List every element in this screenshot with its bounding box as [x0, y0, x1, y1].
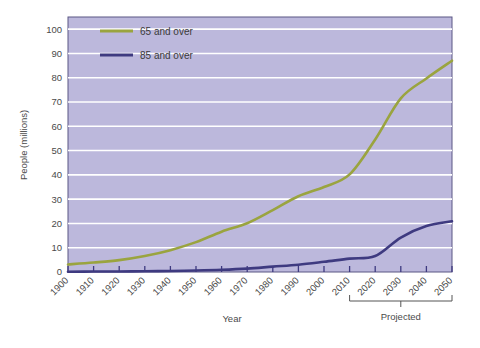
legend-label-85-and-over: 85 and over	[140, 50, 193, 61]
y-tick-90: 90	[51, 48, 62, 59]
y-tick-100: 100	[46, 24, 62, 35]
population-line-chart: 0102030405060708090100 19001910192019301…	[0, 0, 480, 348]
y-tick-70: 70	[51, 96, 62, 107]
x-axis-label: Year	[222, 313, 241, 324]
y-tick-50: 50	[51, 145, 62, 156]
y-tick-80: 80	[51, 72, 62, 83]
y-tick-40: 40	[51, 169, 62, 180]
y-tick-20: 20	[51, 218, 62, 229]
projected-label: Projected	[381, 311, 421, 322]
chart-container: 0102030405060708090100 19001910192019301…	[0, 0, 480, 348]
y-tick-60: 60	[51, 121, 62, 132]
y-tick-10: 10	[51, 242, 62, 253]
y-tick-30: 30	[51, 194, 62, 205]
y-axis-label: People (millions)	[18, 110, 29, 180]
legend-label-65-and-over: 65 and over	[140, 26, 193, 37]
